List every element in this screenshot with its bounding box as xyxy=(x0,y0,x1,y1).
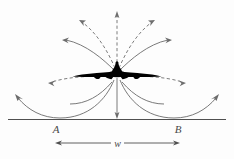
arrowhead-solid-lower-right xyxy=(211,94,219,101)
width-dimension-line: w xyxy=(55,138,180,149)
figure-container: A B w xyxy=(0,0,234,159)
label-point-a: A xyxy=(52,123,60,135)
solid-field-line-inner-right xyxy=(122,82,164,104)
solid-field-line-lower-right xyxy=(120,80,216,118)
dashed-field-line-upper-left xyxy=(82,22,115,68)
label-point-b: B xyxy=(175,123,182,135)
aircraft-body-wings xyxy=(73,67,162,80)
diagram-canvas: A B w xyxy=(0,0,234,159)
solid-field-line-upper-left xyxy=(66,40,114,70)
arrowhead-dashed-mid-left xyxy=(48,81,55,87)
arrowhead-solid-lower-left xyxy=(15,94,23,101)
solid-field-line-upper-right xyxy=(120,40,168,70)
arrowhead-dashed-upper-right xyxy=(148,20,155,26)
aircraft-silhouette xyxy=(73,61,162,79)
solid-field-lines-group xyxy=(18,40,216,118)
solid-field-line-inner-left xyxy=(70,82,112,104)
solid-field-line-lower-left xyxy=(18,80,114,118)
arrowhead-dashed-mid-right xyxy=(179,81,186,87)
dashed-field-line-upper-right xyxy=(119,22,152,68)
label-width: w xyxy=(114,138,121,149)
arrowhead-dashed-upper-left xyxy=(79,20,86,26)
